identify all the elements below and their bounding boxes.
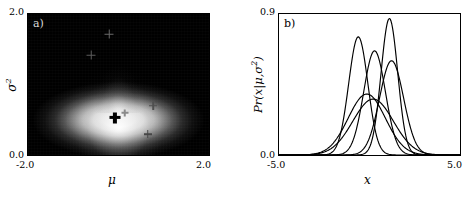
panel-a-yaxis-title-exponent: 2 [3,78,13,83]
panel-b-yaxis-bar: | [251,85,265,89]
panel-b-yaxis-mu: μ [251,77,265,84]
panel-b-yaxis-variable: x [251,89,265,96]
gaussian-curve-group [279,14,460,155]
panel-a: a) 2.0 0.0 -2.0 2.0 μ σ2 [0,0,238,197]
gaussian-curve-5 [279,94,460,155]
gaussian-curve-2 [279,51,460,155]
panel-b-ytick-max: 0.9 [249,7,275,17]
marker-sample-1 [105,30,114,39]
panel-a-xtick-min: -2.0 [16,160,34,170]
marker-sample-3 [149,102,157,110]
panel-b-yaxis-title: Pr(x|μ,σ2) [251,40,264,130]
panel-b-yaxis-comma: , [251,74,265,78]
panel-a-xaxis-title: μ [108,174,116,186]
panel-b-xaxis-title: x [364,174,371,186]
panel-a-letter: a) [33,18,44,29]
panel-b: b) 0.9 0.0 -5.0 5.0 x Pr(x|μ,σ2) [238,0,476,197]
marker-sample-5 [121,109,128,116]
panel-a-yaxis-title-base: σ [5,84,19,92]
panel-a-xtick-max: 2.0 [196,160,211,170]
panel-a-marker-layer [28,14,209,155]
panel-a-yaxis-title: σ2 [4,68,18,102]
panel-a-ytick-max: 2.0 [0,7,24,17]
gaussian-curve-4 [279,61,460,155]
panel-b-yaxis-prefix: Pr( [251,95,265,113]
panel-b-xtick-min: -5.0 [267,160,285,170]
marker-map-estimate [109,112,120,123]
panel-b-plot-area: b) [278,13,461,156]
panel-a-xaxis-title-text: μ [108,173,116,187]
panel-a-plot-area: a) [27,13,210,156]
panel-b-yaxis-sigma: σ [251,66,265,74]
panel-b-xaxis-title-text: x [364,173,371,187]
marker-sample-4 [144,130,152,138]
figure-root: a) 2.0 0.0 -2.0 2.0 μ σ2 b) 0.9 0.0 -5.0… [0,0,476,197]
gaussian-curve-3 [279,19,460,155]
panel-b-xtick-max: 5.0 [447,160,462,170]
panel-b-yaxis-exponent: 2 [250,61,259,66]
panel-b-yaxis-suffix: ) [251,56,265,61]
panel-b-letter: b) [284,18,295,29]
marker-sample-2 [87,51,96,60]
